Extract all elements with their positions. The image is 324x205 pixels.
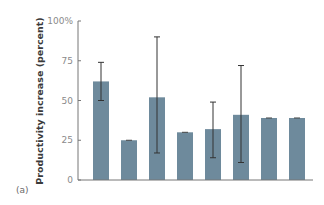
y-tick-label: 50 [62,96,74,106]
y-axis: 0255075100% [47,16,81,185]
bar-chart: 0255075100% Productivity increase (perce… [0,0,324,205]
bar-2 [121,140,137,180]
y-tick-label: 75 [62,56,73,66]
y-tick-label: 0 [67,175,73,185]
y-tick-label: 25 [62,135,73,145]
y-axis-label: Productivity increase (percent) [34,17,45,184]
bar-8 [289,118,305,180]
panel-label: (a) [16,185,29,195]
bars [93,81,305,180]
y-tick-label: 100% [47,16,73,26]
bar-7 [261,118,277,180]
bar-4 [177,132,193,180]
